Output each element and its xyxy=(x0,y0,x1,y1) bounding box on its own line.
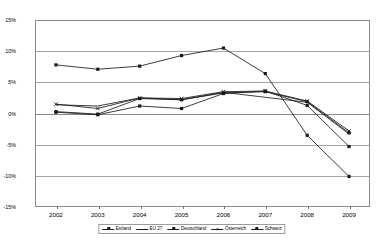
x-tick-2002 xyxy=(57,206,58,209)
x-axis-label: 2002 xyxy=(36,211,76,219)
gridline--5% xyxy=(36,145,369,146)
gridline-5% xyxy=(36,82,369,83)
legend-label: Österreich xyxy=(225,226,246,232)
x-axis-label: 2003 xyxy=(78,211,118,219)
x-axis-label: 2007 xyxy=(245,211,285,219)
legend-label: Deutschland xyxy=(181,226,207,232)
legend-label: EU 27 xyxy=(150,226,163,232)
legend-label: Estland xyxy=(116,226,131,232)
x-tick-2007 xyxy=(266,206,267,209)
x-tick-2009 xyxy=(350,206,351,209)
y-axis-label: -5% xyxy=(0,142,16,148)
legend-swatch-icon xyxy=(102,226,114,232)
x-tick-2006 xyxy=(224,206,225,209)
legend-swatch-icon xyxy=(167,226,179,232)
x-axis-label: 2005 xyxy=(162,211,202,219)
legend-swatch-icon xyxy=(251,226,263,232)
y-axis-label: -15% xyxy=(0,204,16,210)
legend-entry-estland[interactable]: Estland xyxy=(102,226,131,232)
legend-swatch-icon xyxy=(136,226,148,232)
x-axis-label: 2004 xyxy=(120,211,160,219)
legend-entry-eu-27[interactable]: EU 27 xyxy=(136,226,162,232)
gridline--10% xyxy=(36,176,369,177)
legend-entry-deutschland[interactable]: Deutschland xyxy=(167,226,206,232)
y-axis-label: 15% xyxy=(0,17,16,23)
y-axis-label: 5% xyxy=(0,79,16,85)
x-tick-2008 xyxy=(308,206,309,209)
y-axis-label: -10% xyxy=(0,173,16,179)
plot-area xyxy=(35,20,370,207)
legend-entry-schweiz[interactable]: Schweiz xyxy=(251,226,282,232)
gridline-10% xyxy=(36,51,369,52)
gridline-0% xyxy=(36,114,369,115)
legend-entry--sterreich[interactable]: ×Österreich xyxy=(211,226,246,232)
y-axis-label: 0% xyxy=(0,111,16,117)
legend-swatch-icon: × xyxy=(211,226,223,232)
x-axis-label: 2009 xyxy=(329,211,369,219)
x-axis-label: 2006 xyxy=(203,211,243,219)
x-tick-2003 xyxy=(99,206,100,209)
chart-legend: EstlandEU 27Deutschland×ÖsterreichSchwei… xyxy=(98,224,285,234)
x-tick-2004 xyxy=(141,206,142,209)
x-axis-label: 2008 xyxy=(287,211,327,219)
line-chart: 15%10%5%0%-5%-10%-15% 200220032004200520… xyxy=(0,0,384,246)
x-tick-2005 xyxy=(183,206,184,209)
y-axis-label: 10% xyxy=(0,48,16,54)
legend-label: Schweiz xyxy=(265,226,282,232)
